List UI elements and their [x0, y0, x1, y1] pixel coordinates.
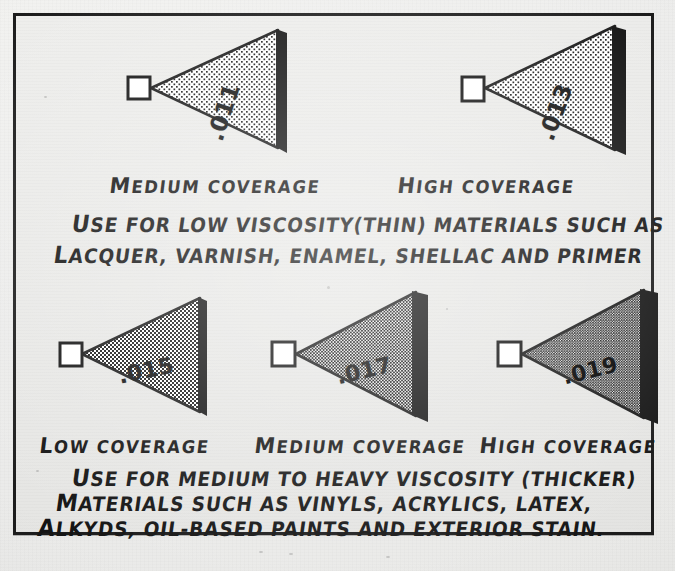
coverage-label-011: MEDIUM COVERAGE: [108, 173, 322, 198]
scan-speck: [36, 470, 39, 472]
spray-fan-015: .015: [58, 296, 238, 426]
scan-speck: [446, 308, 448, 310]
coverage-label-019: HIGH COVERAGE: [478, 433, 658, 458]
note1-line1: USE FOR LOW VISCOSITY(THIN) MATERIALS SU…: [70, 210, 666, 237]
scan-speck: [386, 556, 390, 558]
scan-speck: [289, 553, 293, 555]
note1-line2: LACQUER, VARNISH, ENAMEL, SHELLAC AND PR…: [52, 241, 645, 268]
scan-speck: [259, 551, 263, 553]
coverage-label-017: MEDIUM COVERAGE: [253, 433, 467, 458]
scan-speck: [327, 286, 330, 289]
spray-fan-017: .017: [270, 290, 450, 430]
coverage-label-013: HIGH COVERAGE: [396, 173, 576, 198]
spray-fan-019: .019: [496, 288, 675, 430]
note2-line3: ALKYDS, OIL-BASED PAINTS AND EXTERIOR ST…: [36, 514, 607, 541]
coverage-label-015: LOW COVERAGE: [38, 433, 211, 458]
spray-fan-013: .013: [460, 24, 650, 164]
scan-speck: [44, 96, 47, 98]
spray-fan-011: .011: [126, 26, 316, 166]
note2-line1: USE FOR MEDIUM TO HEAVY VISCOSITY (THICK…: [70, 464, 638, 491]
note2-line2: MATERIALS SUCH AS VINYLS, ACRYLICS, LATE…: [54, 489, 594, 516]
